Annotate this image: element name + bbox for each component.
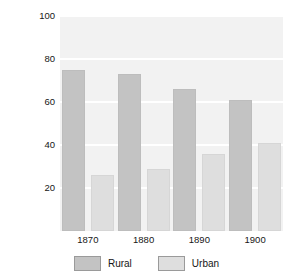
bar-urban-1900 xyxy=(258,143,281,231)
gridline xyxy=(60,58,283,60)
legend-label: Urban xyxy=(192,258,219,269)
bar-rural-1870 xyxy=(62,70,85,231)
gridline xyxy=(60,16,283,17)
chart-legend: RuralUrban xyxy=(0,252,293,274)
legend-item-rural: Rural xyxy=(74,256,132,271)
legend-swatch-icon xyxy=(74,256,101,271)
y-axis-tick-label: 60 xyxy=(25,96,55,108)
legend-label: Rural xyxy=(108,258,132,269)
y-axis-tick-label: 40 xyxy=(25,139,55,151)
bar-chart: Percent of U.S. population 20406080100 1… xyxy=(0,0,293,279)
y-axis-tick-label: 20 xyxy=(25,182,55,194)
y-axis-tick-label: 80 xyxy=(25,53,55,65)
legend-swatch-icon xyxy=(158,256,185,271)
bar-rural-1900 xyxy=(229,100,252,231)
bar-urban-1870 xyxy=(91,175,114,231)
y-axis-tick-label: 100 xyxy=(25,10,55,22)
x-axis-tick-label: 1900 xyxy=(232,234,278,246)
bar-rural-1880 xyxy=(118,74,141,231)
bar-urban-1890 xyxy=(202,154,225,231)
legend-item-urban: Urban xyxy=(158,256,219,271)
plot-area xyxy=(60,16,283,231)
x-axis-tick-label: 1880 xyxy=(121,234,167,246)
x-axis-tick-label: 1870 xyxy=(65,234,111,246)
x-axis-tick-label: 1890 xyxy=(176,234,222,246)
bar-rural-1890 xyxy=(173,89,196,231)
bar-urban-1880 xyxy=(147,169,170,231)
